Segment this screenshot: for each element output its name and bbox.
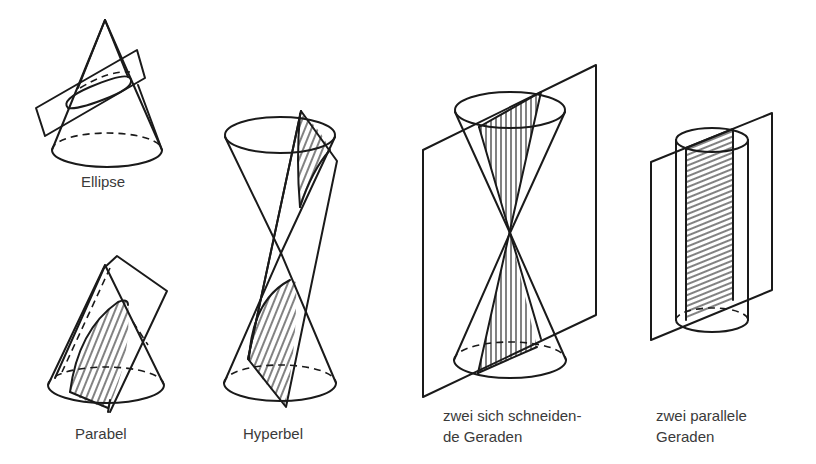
label-line: Parabel [75,425,127,442]
cone-body [52,20,162,167]
label-line: Hyperbel [243,425,303,442]
figure-hyperbel [224,111,337,407]
label-line: Geraden [656,426,747,447]
diagram-canvas [0,0,816,464]
upper-triangle-fill [479,92,541,233]
label-intersecting-lines: zwei sich schneiden- de Geraden [443,405,581,447]
conic-sections-diagram: Ellipse Parabel Hyperbel zwei sich schne… [0,0,816,464]
label-line: de Geraden [443,426,581,447]
label-hyperbel: Hyperbel [243,423,303,444]
figure-parabel [48,256,167,412]
label-line: Ellipse [81,173,125,190]
label-ellipse: Ellipse [81,171,125,192]
figure-parallel-lines [651,113,772,340]
figure-intersecting-lines [423,65,596,397]
lower-triangle-fill [478,233,537,373]
label-line: zwei sich schneiden- [443,405,581,426]
lower-branch-fill [249,280,296,405]
label-parallel-lines: zwei parallele Geraden [656,405,747,447]
parallel-strip-fill [686,129,733,320]
label-line: zwei parallele [656,405,747,426]
label-parabel: Parabel [75,423,127,444]
figure-ellipse [36,20,162,167]
